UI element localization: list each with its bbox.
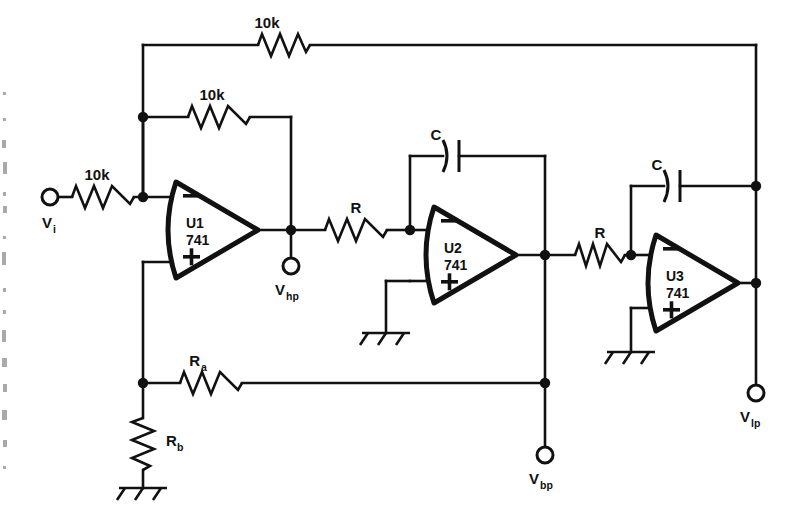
label-resistor-u1-feedback: 10k (199, 86, 225, 103)
svg-text:b: b (177, 441, 183, 453)
junction-u2-inverting (405, 225, 415, 235)
capacitor-symbols (443, 140, 680, 202)
junction-vlp (751, 278, 761, 288)
opamp-u2-designator: U2 (444, 240, 462, 256)
opamp-u3-designator: U3 (666, 268, 684, 284)
junction-vhp (286, 225, 296, 235)
opamp-u1-designator: U1 (186, 215, 204, 231)
junction-ra-rb (138, 378, 148, 388)
label-resistor-rb: R b (166, 432, 183, 453)
opamp-u1-part: 741 (186, 232, 210, 248)
circuit-schematic: U1 741 U2 741 U3 741 (0, 0, 794, 528)
junction-u3-inverting (626, 250, 636, 260)
svg-text:V: V (42, 214, 52, 231)
resistor-input-zigzag (72, 186, 134, 208)
label-resistor-r1: R (351, 199, 362, 216)
opamp-u3-part: 741 (666, 285, 690, 301)
junction-vbp (540, 250, 550, 260)
ground-rb (117, 488, 167, 500)
junction-c2-top (751, 181, 761, 191)
label-terminal-vbp: V bp (529, 470, 553, 491)
svg-text:lp: lp (751, 417, 760, 429)
label-terminal-vhp: V hp (275, 281, 299, 302)
label-capacitor-c2: C (652, 156, 663, 173)
label-resistor-r2: R (595, 224, 606, 241)
label-resistor-input: 10k (84, 166, 110, 183)
junction-u1-inverting (138, 112, 148, 122)
resistor-u1-feedback-zigzag (188, 106, 250, 128)
resistor-r1-zigzag (325, 219, 387, 241)
svg-text:bp: bp (540, 479, 553, 491)
label-terminal-vi: V i (42, 214, 56, 235)
svg-text:a: a (201, 361, 207, 373)
svg-text:V: V (740, 408, 750, 425)
label-capacitor-c1: C (431, 126, 442, 143)
junction-u1-input-node (138, 192, 148, 202)
junction-ra-vbp (540, 378, 550, 388)
svg-text:R: R (166, 432, 177, 449)
label-terminal-vlp: V lp (740, 408, 760, 429)
label-resistor-ra: R a (189, 352, 207, 373)
opamp-u1-minus-icon (183, 194, 200, 198)
terminal-vhp-circle (283, 258, 299, 274)
label-resistor-top-feedback: 10k (254, 14, 280, 31)
svg-text:V: V (275, 281, 285, 298)
terminal-vi-circle (42, 189, 58, 205)
ground-u3 (605, 352, 655, 364)
resistor-top-feedback-zigzag (258, 34, 310, 56)
terminal-vbp-circle (537, 447, 553, 463)
resistor-r2-zigzag (575, 244, 625, 266)
opamp-u3-body (648, 235, 738, 331)
opamp-u2-part: 741 (444, 257, 468, 273)
scan-edge-artifact (2, 92, 7, 469)
resistor-rb-zigzag (132, 418, 154, 470)
opamp-u3-minus-icon (663, 247, 680, 251)
opamp-u2-body (426, 207, 516, 303)
opamp-u2: U2 741 (426, 207, 516, 303)
opamp-u1-body (168, 182, 258, 278)
ground-u2 (360, 333, 410, 345)
svg-text:R: R (189, 352, 200, 369)
svg-text:hp: hp (286, 290, 299, 302)
opamp-u1: U1 741 (168, 182, 258, 278)
resistor-ra-zigzag (180, 372, 242, 394)
terminal-vlp-circle (748, 385, 764, 401)
svg-text:i: i (53, 223, 56, 235)
opamp-u2-minus-icon (441, 219, 458, 223)
svg-text:V: V (529, 470, 539, 487)
opamp-u3: U3 741 (648, 235, 738, 331)
